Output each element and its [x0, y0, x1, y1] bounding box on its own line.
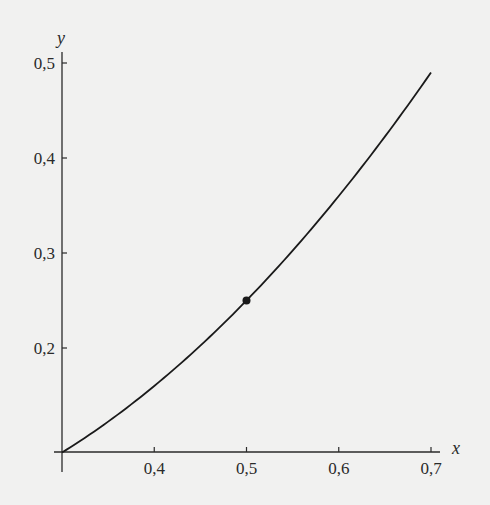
y-axis-label: y	[55, 28, 65, 48]
y-tick-label: 0,2	[34, 339, 55, 358]
x-tick-label: 0,5	[236, 459, 257, 478]
curve-line	[62, 73, 431, 453]
y-tick-label: 0,4	[34, 149, 56, 168]
y-tick-label: 0,5	[34, 54, 55, 73]
chart: 0,40,50,60,7 0,20,30,40,5 x y	[0, 0, 490, 505]
x-tick-label: 0,7	[420, 459, 442, 478]
highlight-point	[243, 297, 251, 305]
y-tick-label: 0,3	[34, 244, 55, 263]
x-tick-label: 0,6	[328, 459, 349, 478]
x-axis-label: x	[451, 438, 460, 458]
x-tick-label: 0,4	[144, 459, 166, 478]
